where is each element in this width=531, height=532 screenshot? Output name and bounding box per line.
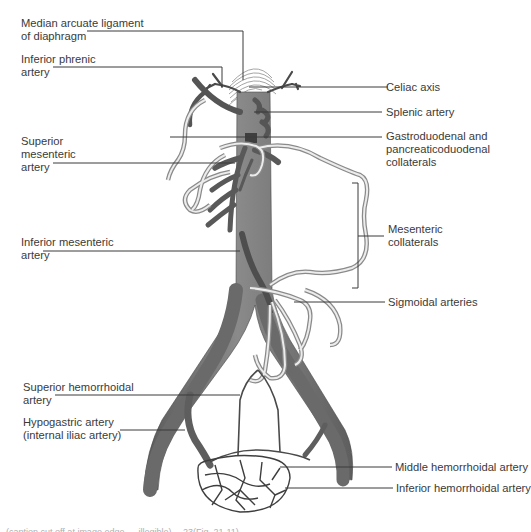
label-sigmoidal-arteries: Sigmoidal arteries (388, 296, 478, 309)
label-line: Median arcuate ligament (21, 17, 144, 30)
label-line: artery (21, 161, 76, 174)
label-inferior-mesenteric-artery: Inferior mesenteric artery (21, 236, 114, 262)
figure-caption-cropped: (caption cut off at image edge — illegib… (6, 524, 512, 532)
right-common-iliac (262, 300, 343, 480)
hypogastric-artery-vessel (188, 395, 210, 465)
label-mesenteric-collaterals: Mesenteric collaterals (388, 223, 443, 249)
label-line: Superior (21, 135, 76, 148)
label-median-arcuate-ligament: Median arcuate ligament of diaphragm (21, 17, 144, 43)
label-gastroduodenal-collaterals: Gastroduodenal and pancreaticoduodenal c… (386, 130, 490, 169)
label-superior-mesenteric-artery: Superior mesenteric artery (21, 135, 76, 174)
label-line: Superior hemorrhoidal (23, 381, 134, 394)
label-line: pancreaticoduodenal (386, 143, 490, 156)
label-line: artery (23, 394, 134, 407)
label-superior-hemorrhoidal-artery: Superior hemorrhoidal artery (23, 381, 134, 407)
label-line: mesenteric (21, 148, 76, 161)
label-line: Sigmoidal arteries (388, 296, 478, 309)
label-line: Gastroduodenal and (386, 130, 490, 143)
label-celiac-axis: Celiac axis (386, 81, 440, 94)
label-line: Mesenteric (388, 223, 443, 236)
label-line: Inferior hemorrhoidal artery (396, 482, 531, 495)
label-hypogastric-artery: Hypogastric artery (internal iliac arter… (23, 416, 121, 442)
label-line: collaterals (388, 236, 443, 249)
label-line: Inferior phrenic (21, 53, 96, 66)
left-common-iliac (150, 290, 236, 490)
label-inferior-phrenic-artery: Inferior phrenic artery (21, 53, 96, 79)
label-line: Hypogastric artery (23, 416, 121, 429)
label-line: Splenic artery (386, 106, 454, 119)
label-line: of diaphragm (21, 30, 144, 43)
label-line: artery (21, 249, 114, 262)
label-line: Inferior mesenteric (21, 236, 114, 249)
label-line: (internal iliac artery) (23, 429, 121, 442)
label-middle-hemorrhoidal-artery: Middle hemorrhoidal artery (395, 461, 528, 474)
label-splenic-artery: Splenic artery (386, 106, 454, 119)
label-line: artery (21, 66, 96, 79)
label-line: Celiac axis (386, 81, 440, 94)
label-line: Middle hemorrhoidal artery (395, 461, 528, 474)
label-line: collaterals (386, 156, 490, 169)
label-inferior-hemorrhoidal-artery: Inferior hemorrhoidal artery (396, 482, 531, 495)
